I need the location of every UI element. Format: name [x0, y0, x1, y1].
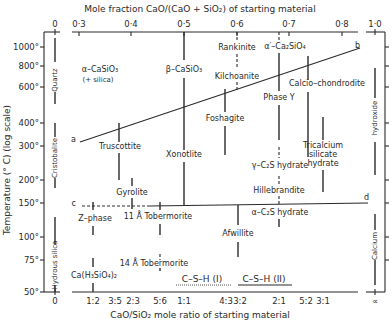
gyrolite-label: Gyrolite — [116, 188, 148, 197]
ca-h3sio4-label: Ca(H₃SiO₄)₂ — [71, 271, 117, 280]
x-tick: ∝ — [372, 296, 378, 306]
line-label-c: c — [72, 199, 76, 208]
alpha-prime-c2s-label: α′–Ca₂SiO₄ — [264, 42, 306, 51]
cristobalite-label: Cristobalite — [51, 138, 59, 178]
hydrous-silica-label: Hydrous silica — [51, 241, 59, 290]
tricalcium-label-2: silicate — [309, 150, 337, 159]
y-tick: 300° — [19, 141, 39, 151]
x-tick: 1:2 — [86, 296, 100, 306]
truscottite-label: Truscottite — [98, 142, 141, 151]
x-tick: 4:3 — [219, 296, 233, 306]
x-tick: 2:1 — [272, 296, 286, 306]
top-tick: 0·6 — [230, 19, 244, 29]
quartz-label: Quartz — [51, 68, 59, 92]
alpha-casio3-note: (+ silica) — [82, 76, 113, 84]
csh2-label: C–S–H (II) — [243, 274, 286, 284]
gamma-c2s-hydrate-label: γ–C₂S hydrate — [252, 161, 308, 170]
x-tick: 1:1 — [177, 296, 191, 306]
x-tick: 3:2 — [233, 296, 247, 306]
hillebrandite-label: Hillebrandite — [253, 186, 304, 195]
y-tick: 150° — [19, 198, 39, 208]
hydroxide-label: hydroxide — [371, 101, 379, 136]
kilchoanite-label: Kilchoanite — [215, 72, 259, 81]
line-label-b: b — [355, 41, 360, 50]
top-axis-title: Mole fraction CaO/(CaO + SiO₂) of starti… — [84, 4, 315, 14]
top-tick: 0·4 — [124, 19, 138, 29]
x-tick: 3:5 — [108, 296, 122, 306]
beta-casio3-label: β–CaSiO₃ — [166, 65, 202, 74]
top-tick: 1·0 — [368, 19, 382, 29]
x-tick: 2:3 — [126, 296, 140, 306]
y-tick: 400° — [19, 118, 39, 128]
phase-diagram: Mole fraction CaO/(CaO + SiO₂) of starti… — [0, 0, 392, 326]
bottom-axis-title: CaO/SiO₂ mole ratio of starting material — [110, 310, 289, 320]
x-tick: 3:1 — [316, 296, 330, 306]
top-tick: 0·8 — [335, 19, 349, 29]
y-tick: 100° — [19, 232, 39, 242]
y-tick: 200° — [19, 175, 39, 185]
y-tick: 600° — [19, 82, 39, 92]
x-tick: 5:6 — [153, 296, 167, 306]
tricalcium-label-1: Tricalcium — [302, 141, 343, 150]
line-label-a: a — [71, 135, 76, 144]
left-axis-title: Temperature (° C) (log scale) — [2, 105, 12, 236]
line-label-d: d — [364, 193, 369, 202]
y-tick: 75° — [24, 255, 39, 265]
top-tick: 0 — [52, 19, 57, 29]
y-tick: 50° — [24, 287, 39, 297]
y-tick: 800° — [19, 61, 39, 71]
calcio-chondrodite-label: Calcio–chondrodite — [289, 79, 365, 88]
phase-y-label: Phase Y — [263, 93, 294, 102]
foshagite-label: Foshagite — [206, 114, 245, 123]
top-tick: 0·7 — [282, 19, 296, 29]
rankinite-label: Rankinite — [218, 43, 256, 52]
tricalcium-label-3: hydrate — [307, 159, 338, 168]
top-tick: 0·3 — [72, 19, 86, 29]
afwillite-label: Afwillite — [222, 229, 253, 238]
tobermorite-11-label: 11 Å Tobermorite — [124, 210, 193, 221]
calcium-label: Calcium — [371, 232, 379, 260]
alpha-casio3-label: α–CaSiO₃ — [82, 65, 119, 74]
y-tick: 1000° — [13, 42, 39, 52]
tobermorite-14-label: 14 Å Tobermorite — [120, 257, 189, 268]
x-tick: 5:2 — [299, 296, 313, 306]
csh1-label: C–S–H (I) — [182, 274, 222, 284]
xonotlite-label: Xonotlite — [166, 150, 202, 159]
x-tick: 0 — [52, 296, 57, 306]
z-phase-label: Z–phase — [78, 214, 112, 223]
alpha-c2s-hydrate-label: α–C₂S hydrate — [252, 208, 309, 217]
top-tick: 0·5 — [177, 19, 191, 29]
